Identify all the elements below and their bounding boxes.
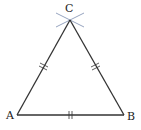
equilateral-triangle-diagram: A B C	[0, 0, 141, 130]
side-ac	[17, 20, 70, 115]
tick-marks	[39, 63, 100, 119]
triangle	[17, 20, 124, 115]
vertex-label-a: A	[5, 109, 15, 122]
vertex-label-c: C	[65, 2, 73, 15]
vertex-label-b: B	[127, 110, 135, 123]
